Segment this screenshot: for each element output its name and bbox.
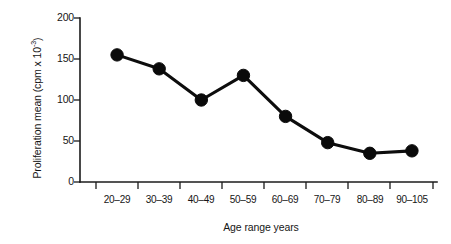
data-point-50–59 [237,69,249,81]
data-point-60–69 [279,110,291,122]
data-point-90–105 [406,145,418,157]
data-point-30–39 [153,63,165,75]
data-point-80–89 [364,147,376,159]
data-point-20–29 [111,49,123,61]
data-point-40–49 [195,94,207,106]
data-point-70–79 [321,136,333,148]
chart-figure: Proliferation mean (cpm x 10-3) Age rang… [0,0,451,244]
series-markers-group [111,49,418,160]
plot-area [0,0,451,244]
